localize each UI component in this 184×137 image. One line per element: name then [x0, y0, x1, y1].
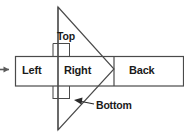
left-direction-arrow — [0, 67, 9, 73]
region-label-bottom: Bottom — [96, 100, 132, 111]
region-label-right: Right — [64, 65, 91, 76]
region-label-top: Top — [57, 31, 75, 42]
diagram-canvas: Left Right Back Top Bottom — [0, 0, 184, 137]
bottom-leader-bracket — [53, 86, 70, 99]
top-leader-bracket — [53, 44, 70, 57]
region-label-back: Back — [129, 65, 155, 76]
region-label-left: Left — [22, 65, 41, 76]
